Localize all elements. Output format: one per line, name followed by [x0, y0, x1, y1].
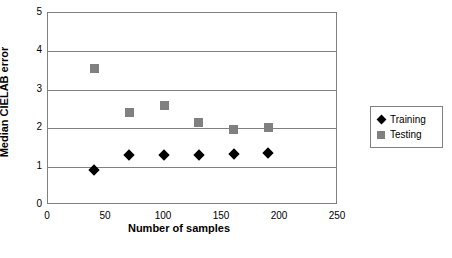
- x-tick-label: 150: [213, 211, 230, 221]
- data-point-training: [124, 149, 135, 160]
- data-point-testing: [194, 118, 203, 127]
- legend-label: Training: [390, 115, 426, 125]
- legend: Training Testing: [370, 106, 443, 148]
- square-marker-icon: [375, 129, 387, 141]
- x-tick-label: 100: [155, 211, 172, 221]
- x-tick-label: 50: [99, 211, 110, 221]
- x-tick-label: 250: [329, 211, 346, 221]
- gridline: [48, 51, 336, 52]
- gridline: [48, 128, 336, 129]
- legend-label: Testing: [390, 130, 422, 140]
- data-point-testing: [264, 123, 273, 132]
- legend-item-training: Training: [375, 112, 438, 127]
- data-point-training: [158, 149, 169, 160]
- diamond-marker-icon: [375, 114, 387, 126]
- x-axis-title: Number of samples: [0, 222, 405, 234]
- data-point-testing: [160, 101, 169, 110]
- plot-area: [47, 12, 337, 204]
- data-point-testing: [90, 64, 99, 73]
- legend-item-testing: Testing: [375, 127, 438, 142]
- gridline: [48, 90, 336, 91]
- y-axis-title-wrap: Median CIELAB error: [2, 12, 22, 204]
- data-point-training: [228, 149, 239, 160]
- data-point-training: [193, 149, 204, 160]
- chart-container: 012345 050100150200250 Median CIELAB err…: [0, 0, 452, 258]
- data-point-testing: [229, 125, 238, 134]
- x-tick-label: 200: [271, 211, 288, 221]
- y-axis-title: Median CIELAB error: [0, 6, 10, 198]
- data-point-testing: [125, 108, 134, 117]
- data-point-training: [263, 147, 274, 158]
- x-tick-label: 0: [44, 211, 50, 221]
